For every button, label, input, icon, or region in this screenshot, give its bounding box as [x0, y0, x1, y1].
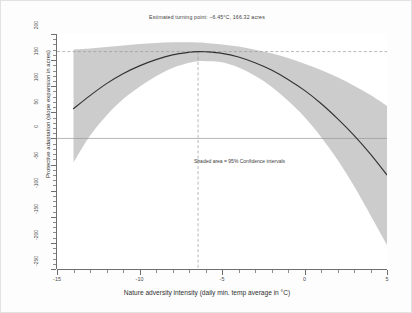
y-tick-label: -250 [23, 264, 49, 274]
confidence-interval-note: Shaded area = 95% Confidence intervals [194, 158, 285, 164]
y-tick-label-text: 0 [31, 125, 41, 151]
y-tick-minor [53, 118, 56, 119]
y-tick-minor [53, 91, 56, 92]
x-tick [140, 270, 141, 275]
y-tick-minor [53, 71, 56, 72]
y-tick [51, 217, 56, 218]
y-tick-minor [53, 154, 56, 155]
y-tick-minor [53, 50, 56, 51]
x-tick-minor [272, 270, 273, 273]
x-tick-minor [338, 270, 339, 273]
x-tick [305, 270, 306, 275]
y-axis-title: Protective adaptation (slope expansion i… [45, 4, 51, 224]
y-tick-minor [53, 170, 56, 171]
y-tick-minor [53, 76, 56, 77]
y-tick-label-text: -200 [31, 230, 41, 256]
x-tick-minor [371, 270, 372, 273]
y-tick-minor [53, 123, 56, 124]
y-tick [51, 112, 56, 113]
chart-title: Estimated turning point: –6.45°C, 166.32… [1, 14, 412, 20]
y-tick-minor [53, 253, 56, 254]
y-axis-line [56, 34, 57, 269]
y-tick-minor [53, 159, 56, 160]
y-tick-minor [53, 185, 56, 186]
x-tick-minor [123, 270, 124, 273]
x-axis-title: Nature adversity intensity (daily min. t… [1, 289, 412, 296]
x-tick-label: -5 [207, 276, 237, 282]
y-tick-minor [53, 144, 56, 145]
x-tick-minor [321, 270, 322, 273]
x-tick-label: 0 [290, 276, 320, 282]
y-tick-minor [53, 102, 56, 103]
y-tick-minor [53, 238, 56, 239]
y-tick-label-text: 50 [31, 99, 41, 125]
y-tick-label-text: 100 [31, 73, 41, 99]
chart-figure: Estimated turning point: –6.45°C, 166.32… [0, 0, 412, 313]
y-tick-minor [53, 128, 56, 129]
y-tick-label-text: 200 [31, 21, 41, 47]
y-tick-minor [53, 259, 56, 260]
y-tick-minor [53, 39, 56, 40]
y-tick-label-text: -50 [31, 152, 41, 178]
x-tick-minor [173, 270, 174, 273]
y-tick [51, 269, 56, 270]
y-tick [51, 191, 56, 192]
y-tick-label-text: -250 [31, 256, 41, 282]
x-tick [222, 270, 223, 275]
x-tick-minor [156, 270, 157, 273]
y-tick-label: -200 [23, 238, 49, 248]
y-tick [51, 60, 56, 61]
y-tick-minor [53, 206, 56, 207]
y-tick-minor [53, 81, 56, 82]
y-tick [51, 34, 56, 35]
x-tick-minor [239, 270, 240, 273]
y-tick-minor [53, 107, 56, 108]
y-tick-minor [53, 248, 56, 249]
y-tick-minor [53, 97, 56, 98]
x-tick-label: 5 [372, 276, 402, 282]
y-tick-minor [53, 133, 56, 134]
x-tick-minor [90, 270, 91, 273]
y-tick-minor [53, 196, 56, 197]
x-tick [387, 270, 388, 275]
y-tick-minor [53, 180, 56, 181]
y-tick-minor [53, 149, 56, 150]
y-tick [51, 243, 56, 244]
y-tick-minor [53, 201, 56, 202]
y-tick [51, 138, 56, 139]
y-tick-minor [53, 222, 56, 223]
y-tick-label-text: -150 [31, 204, 41, 230]
y-tick [51, 165, 56, 166]
y-tick-minor [53, 65, 56, 66]
x-tick-label: -15 [42, 276, 72, 282]
x-tick-minor [74, 270, 75, 273]
y-tick-minor [53, 264, 56, 265]
x-tick-minor [189, 270, 190, 273]
y-tick-minor [53, 212, 56, 213]
x-tick-minor [288, 270, 289, 273]
y-tick-minor [53, 232, 56, 233]
y-tick-minor [53, 44, 56, 45]
x-tick-minor [354, 270, 355, 273]
y-tick-minor [53, 55, 56, 56]
plot-canvas [57, 34, 387, 269]
confidence-band [74, 42, 388, 245]
y-tick-minor [53, 227, 56, 228]
x-tick [57, 270, 58, 275]
x-tick-minor [206, 270, 207, 273]
y-tick-label-text: -100 [31, 178, 41, 204]
x-tick-label: -10 [125, 276, 155, 282]
plot-area [57, 34, 387, 269]
y-tick [51, 86, 56, 87]
x-tick-minor [107, 270, 108, 273]
y-tick-minor [53, 175, 56, 176]
y-tick-label-text: 150 [31, 47, 41, 73]
x-tick-minor [255, 270, 256, 273]
